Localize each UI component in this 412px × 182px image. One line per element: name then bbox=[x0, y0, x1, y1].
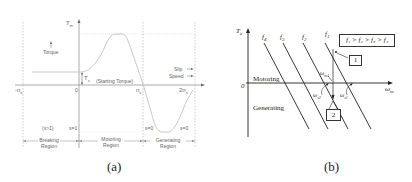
speed-legend: Speed bbox=[169, 74, 183, 79]
line-f4 bbox=[264, 43, 309, 129]
label-f3: f3 bbox=[280, 34, 284, 42]
slip-s0-left: s=0 bbox=[145, 126, 153, 131]
starting-torque-label: (Starting Torque) bbox=[96, 79, 133, 84]
te-axis-arrow-icon bbox=[246, 28, 250, 33]
caption-b: (b) bbox=[324, 160, 339, 173]
origin-label: 0 bbox=[241, 83, 245, 90]
tick-zero: 0 bbox=[75, 88, 78, 93]
x-axis-arrow-icon bbox=[201, 84, 205, 87]
torque-speed-diagram: Tm Torque Ts (Starting Torque) Slip Spee… bbox=[0, 0, 210, 182]
motoring-label: Motoring bbox=[253, 76, 279, 83]
omega-s2-label: ωs2 bbox=[313, 92, 321, 100]
region-braking: Breaking Region bbox=[38, 138, 60, 149]
region-generating: Generating Region bbox=[150, 138, 186, 149]
omega-m1-label: ωm1 bbox=[320, 70, 329, 78]
tick-neg-ns: -ns bbox=[15, 87, 22, 95]
torque-legend: Torque bbox=[43, 50, 58, 55]
slip-arrow-icon bbox=[191, 68, 194, 70]
torque-up-arrow-icon bbox=[50, 41, 52, 44]
omega-s1-label: ωs1 bbox=[340, 92, 348, 100]
point-2-box: 2 bbox=[326, 109, 341, 121]
label-f1: f1 bbox=[325, 31, 329, 39]
slip-s1: s=1 bbox=[69, 126, 77, 131]
y-axis-arrow-icon bbox=[78, 19, 81, 23]
y-axis-label: Tm bbox=[66, 20, 73, 28]
tick-two-ns: 2ns bbox=[179, 87, 188, 95]
omega-axis-label: ωm bbox=[385, 86, 394, 94]
slip-braking: (s>1) bbox=[42, 126, 54, 131]
speed-arrow-icon bbox=[191, 75, 194, 77]
caption-a: (a) bbox=[107, 160, 121, 173]
label-f2: f2 bbox=[302, 34, 306, 42]
generating-label: Generating bbox=[253, 105, 284, 112]
slip-legend: Slip bbox=[174, 67, 182, 72]
region-motoring: Motoring Region bbox=[98, 137, 124, 148]
te-axis-label: Te bbox=[236, 28, 242, 36]
label-f4: f4 bbox=[262, 34, 266, 42]
tick-ns: ns bbox=[136, 87, 141, 95]
starting-torque-symbol: Ts bbox=[84, 75, 90, 83]
point-1-box: 1 bbox=[349, 55, 362, 66]
frequency-order-box: f₁ > f₂ > f₃ > f₄ bbox=[339, 34, 395, 47]
line-f3 bbox=[283, 43, 328, 129]
slip-s0-right: s=0 bbox=[180, 126, 188, 131]
vf-control-diagram: Te 0 ωm f4 f3 f2 f1 f₁ > f₂ > f₃ > f₄ 1 … bbox=[210, 0, 412, 182]
